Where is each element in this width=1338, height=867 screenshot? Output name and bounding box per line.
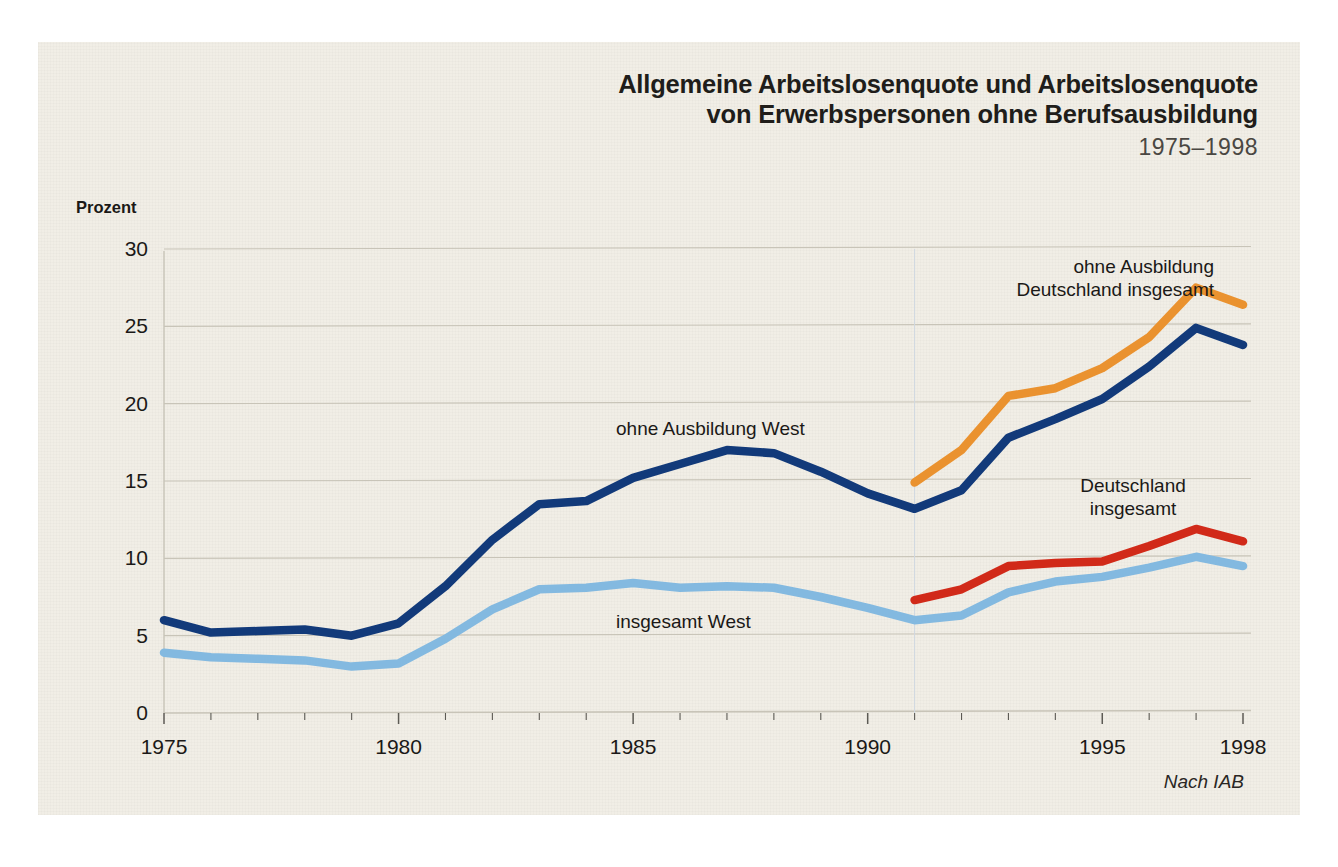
gridline bbox=[164, 711, 1251, 714]
annotation-ohne-ausbildung-deutschland: ohne Ausbildung Deutschland insgesamt bbox=[1017, 255, 1215, 301]
y-tick-label: 30 bbox=[96, 237, 148, 261]
annotation-ohne-ausbildung-west: ohne Ausbildung West bbox=[616, 417, 805, 440]
annotation-line-1: Deutschland bbox=[1048, 474, 1218, 497]
series-line bbox=[915, 529, 1243, 600]
gridline bbox=[164, 324, 1251, 327]
gridline bbox=[164, 247, 1251, 250]
annotation-line-1: ohne Ausbildung bbox=[1017, 255, 1215, 278]
figure-root: Allgemeine Arbeitslosenquote und Arbeits… bbox=[0, 0, 1338, 867]
chart-panel: Allgemeine Arbeitslosenquote und Arbeits… bbox=[38, 42, 1300, 815]
y-tick-label: 20 bbox=[96, 392, 148, 416]
annotation-deutschland-insgesamt: Deutschland insgesamt bbox=[1048, 474, 1218, 520]
x-tick-label: 1980 bbox=[375, 735, 422, 759]
x-tick-marks bbox=[164, 713, 1243, 724]
annotation-line-2: insgesamt bbox=[1048, 497, 1218, 520]
annotation-line-2: Deutschland insgesamt bbox=[1017, 278, 1215, 301]
x-tick-label: 1985 bbox=[610, 735, 657, 759]
x-tick-label: 1975 bbox=[141, 735, 188, 759]
annotation-insgesamt-west: insgesamt West bbox=[616, 610, 751, 633]
x-tick-label: 1995 bbox=[1079, 735, 1126, 759]
x-tick-label: 1990 bbox=[844, 735, 891, 759]
y-tick-label: 25 bbox=[96, 314, 148, 338]
y-tick-label: 5 bbox=[96, 624, 148, 648]
y-tick-label: 0 bbox=[96, 701, 148, 725]
series-line bbox=[915, 288, 1243, 483]
source-attribution: Nach IAB bbox=[1164, 771, 1244, 793]
y-tick-label: 15 bbox=[96, 469, 148, 493]
y-tick-label: 10 bbox=[96, 546, 148, 570]
x-tick-label: 1998 bbox=[1220, 735, 1267, 759]
